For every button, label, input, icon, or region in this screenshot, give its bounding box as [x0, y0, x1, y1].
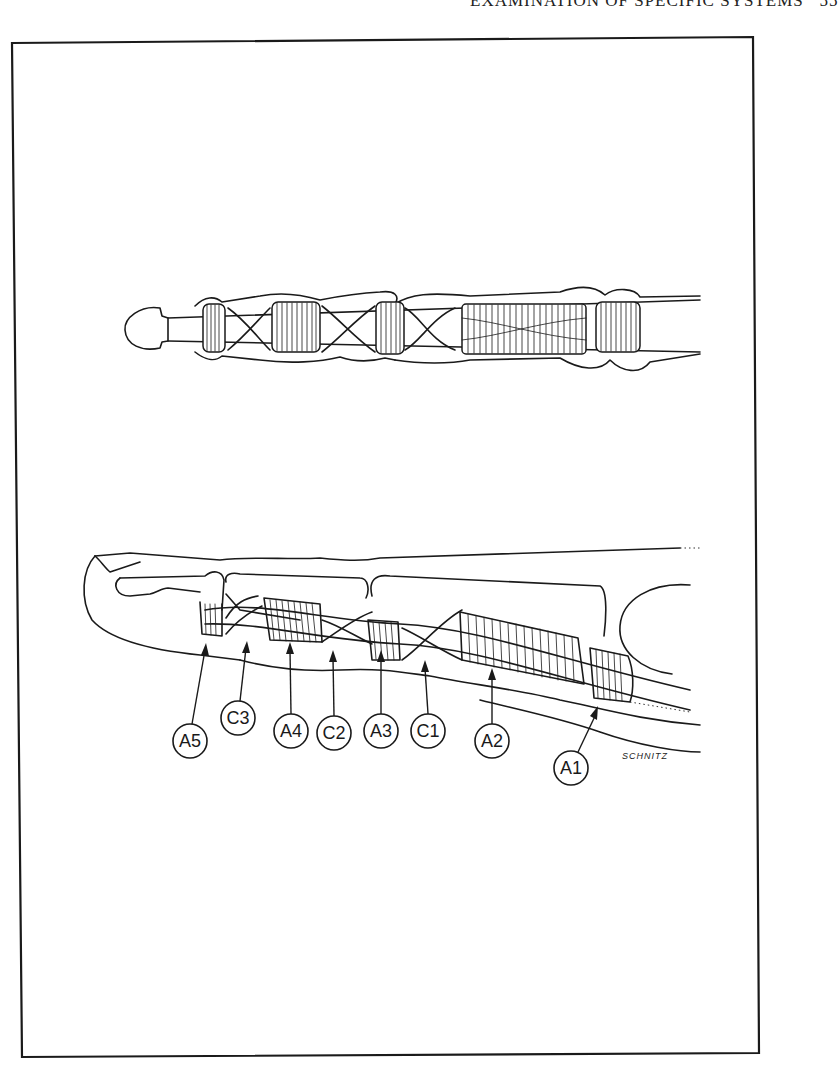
- top-pulley-a5: [203, 304, 225, 352]
- lateral-pulley-a2: [460, 612, 584, 684]
- lateral-pulley-a3: [368, 620, 400, 660]
- artist-signature: SCHNITZ: [622, 751, 668, 761]
- label-a4: A4: [280, 721, 302, 741]
- top-pulley-a4: [272, 302, 320, 352]
- top-pulley-a3: [376, 302, 404, 354]
- label-a1: A1: [560, 758, 582, 778]
- top-pulley-a2: [462, 304, 586, 354]
- top-view-drawing: [125, 287, 700, 370]
- top-pulley-a1: [596, 302, 640, 352]
- label-a2: A2: [481, 731, 503, 751]
- label-a5: A5: [179, 731, 201, 751]
- lateral-pulley-a5: [200, 602, 222, 636]
- figure-border: [12, 37, 759, 1057]
- label-c1: C1: [416, 721, 439, 741]
- label-c2: C2: [322, 723, 345, 743]
- page-number: 55: [820, 0, 839, 10]
- label-c3: C3: [226, 708, 249, 728]
- label-a3: A3: [370, 721, 392, 741]
